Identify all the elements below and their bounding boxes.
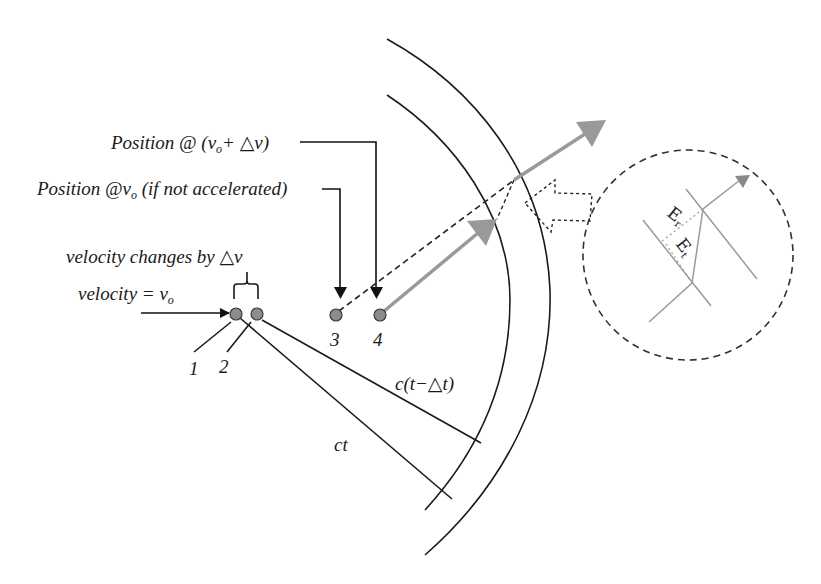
gray-arrow-lower-head [467, 219, 497, 246]
point-3 [330, 309, 342, 321]
point-4 [374, 309, 386, 321]
inset-field-line [649, 180, 740, 322]
label-point-1: 1 [189, 358, 199, 379]
dashed-kink-segment [497, 180, 514, 219]
label-inset-et: Et [671, 234, 698, 260]
delta-v-bracket [234, 272, 258, 299]
arrowhead-to-point-3 [334, 287, 347, 299]
dashed-unaccelerated-path [339, 180, 514, 311]
point-2 [251, 308, 263, 320]
label-point-2: 2 [219, 356, 229, 377]
point-1 [230, 308, 242, 320]
magnify-pointer-arrow [525, 180, 592, 232]
label-position-accelerated: Position @ (vo+ △v) [110, 132, 269, 156]
pointer-line-2 [227, 322, 251, 352]
inset-lower-boundary [643, 220, 711, 306]
inner-wavefront-arc [387, 95, 510, 510]
gray-arrow-upper-head [576, 120, 606, 147]
connector-position-accelerated [300, 142, 376, 287]
label-velocity-initial: velocity = vo [78, 283, 174, 307]
inset-magnifier-circle [583, 150, 793, 360]
label-radius-full: ct [334, 434, 348, 455]
label-position-not-accelerated: Position @vo (if not accelerated) [36, 178, 287, 202]
label-inset-er: Er [663, 202, 690, 229]
radiation-field-diagram: Position @ (vo+ △v) Position @vo (if not… [0, 0, 821, 584]
pointer-line-1 [194, 322, 231, 352]
arrowhead-to-point-4 [370, 287, 383, 299]
outer-wavefront-arc [387, 39, 550, 555]
connector-position-not-accelerated [322, 189, 340, 287]
label-velocity-changes: velocity changes by △v [66, 246, 243, 267]
gray-arrow-lower-shaft [383, 233, 478, 312]
label-radius-delayed: c(t−△t) [395, 373, 454, 395]
label-point-4: 4 [373, 329, 383, 350]
gray-arrow-upper-shaft [514, 132, 588, 180]
label-point-3: 3 [329, 329, 340, 350]
inset-upper-boundary [686, 189, 757, 279]
